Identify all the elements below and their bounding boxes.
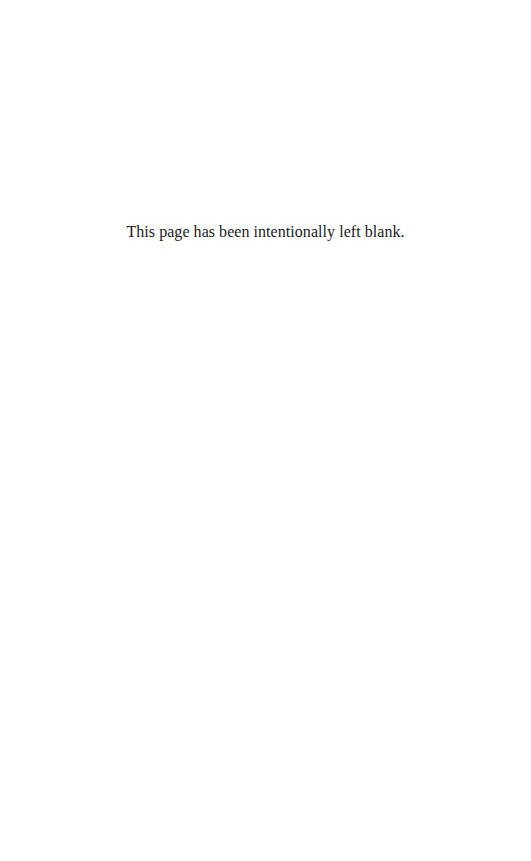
document-page: This page has been intentionally left bl… (0, 0, 531, 861)
blank-page-notice: This page has been intentionally left bl… (0, 222, 531, 242)
